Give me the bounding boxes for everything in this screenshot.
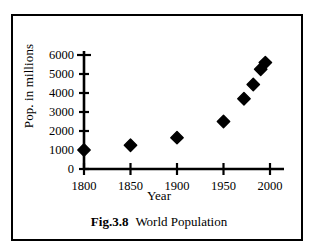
- scatter-plot: Pop. in millions 01000200030004000500060…: [13, 16, 305, 243]
- y-tick-label: 6000: [34, 49, 74, 62]
- y-tick-label: 0: [34, 163, 74, 176]
- caption-label: Fig.3.8: [91, 214, 129, 229]
- data-point: [171, 131, 183, 143]
- data-point: [238, 93, 250, 105]
- data-points-group: [78, 56, 272, 156]
- data-point: [217, 115, 229, 127]
- data-point: [124, 139, 136, 151]
- caption-text: World Population: [128, 214, 227, 229]
- y-tick-label: 1000: [34, 144, 74, 157]
- y-tick-label: 3000: [34, 106, 74, 119]
- figure-frame: Pop. in millions 01000200030004000500060…: [11, 14, 303, 241]
- data-point: [247, 78, 259, 90]
- y-tick-label: 2000: [34, 125, 74, 138]
- data-point: [78, 144, 90, 156]
- x-axis-title: Year: [13, 188, 305, 204]
- y-tick-label: 5000: [34, 68, 74, 81]
- axes-group: [84, 51, 284, 169]
- figure-caption: Fig.3.8World Population: [13, 214, 305, 230]
- y-tick-label: 4000: [34, 87, 74, 100]
- ticks-group: [77, 55, 270, 175]
